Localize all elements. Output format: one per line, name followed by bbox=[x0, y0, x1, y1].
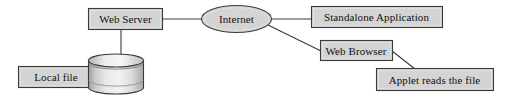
node-web-browser[interactable] bbox=[321, 41, 393, 61]
node-web-server[interactable] bbox=[89, 9, 163, 30]
diagram-canvas: Web Server Internet Standalone Applicati… bbox=[0, 0, 507, 99]
node-database-cylinder[interactable] bbox=[89, 54, 144, 94]
edge-internet-web-browser bbox=[268, 25, 321, 51]
node-applet[interactable] bbox=[377, 69, 494, 91]
edge-web-browser-applet bbox=[392, 51, 415, 69]
diagram-graphics bbox=[0, 0, 507, 99]
node-standalone-application[interactable] bbox=[312, 7, 443, 28]
node-local-file[interactable] bbox=[19, 67, 94, 88]
node-internet[interactable] bbox=[202, 6, 272, 33]
